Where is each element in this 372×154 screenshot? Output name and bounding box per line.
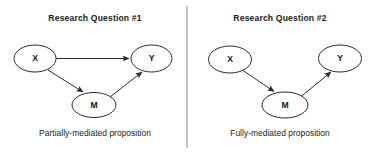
node-label-y: Y bbox=[337, 53, 343, 63]
node-label-x: X bbox=[32, 53, 38, 63]
panel-caption-research-question-2: Fully-mediated proposition bbox=[230, 128, 330, 138]
panel-caption-research-question-1: Partially-mediated proposition bbox=[39, 128, 151, 138]
node-label-y: Y bbox=[149, 53, 155, 63]
edge-research-question-1-m-to-y bbox=[110, 72, 142, 97]
node-label-x: X bbox=[227, 54, 233, 64]
node-label-m: M bbox=[281, 100, 288, 110]
edge-research-question-2-x-to-m bbox=[243, 71, 274, 92]
panel-research-question-1: Research Question #1XYMPartially-mediate… bbox=[14, 13, 172, 138]
node-research-question-1-y: Y bbox=[131, 45, 172, 72]
panel-research-question-2: Research Question #2XYMFully-mediated pr… bbox=[209, 13, 362, 138]
node-research-question-2-m: M bbox=[262, 92, 308, 118]
edge-research-question-1-x-to-m bbox=[48, 70, 83, 92]
node-research-question-1-m: M bbox=[72, 93, 116, 118]
node-research-question-2-y: Y bbox=[319, 45, 362, 72]
node-research-question-1-x: X bbox=[14, 45, 56, 72]
edge-research-question-2-m-to-y bbox=[301, 72, 331, 97]
diagram-canvas: Research Question #1XYMPartially-mediate… bbox=[0, 0, 372, 154]
panel-title-research-question-2: Research Question #2 bbox=[233, 13, 326, 23]
mediation-diagram-figure: Research Question #1XYMPartially-mediate… bbox=[0, 0, 372, 154]
node-research-question-2-x: X bbox=[209, 46, 252, 73]
node-label-m: M bbox=[90, 100, 97, 110]
panel-title-research-question-1: Research Question #1 bbox=[48, 13, 141, 23]
